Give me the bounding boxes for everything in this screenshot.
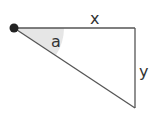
label-x: x bbox=[90, 9, 99, 28]
triangle-diagram: x a y bbox=[0, 0, 157, 120]
label-y: y bbox=[139, 62, 148, 81]
vertex-dot bbox=[10, 24, 19, 33]
hypotenuse bbox=[14, 28, 135, 108]
label-angle-a: a bbox=[51, 32, 61, 51]
